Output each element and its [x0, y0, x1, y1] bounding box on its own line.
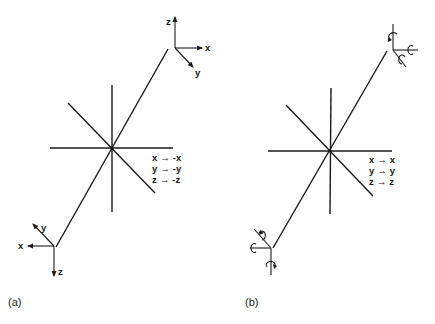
- inversion-center: [328, 149, 331, 152]
- mapping-row-y: y→-y: [152, 163, 182, 174]
- y-axis-arrow: [175, 48, 193, 67]
- bottom-rotation-frame: [250, 229, 277, 275]
- panel-b: x→x y→y z→z (b): [245, 24, 418, 308]
- y-axis-label: y: [41, 222, 47, 233]
- mapping-row-z: z→-z: [152, 174, 180, 185]
- inversion-center: [110, 146, 113, 149]
- figure-canvas: z x y x y z x→-x y→-y z→-z (a): [0, 0, 435, 324]
- mapping-a: x→-x y→-y z→-z: [152, 152, 182, 185]
- mapping-row-x: x→x: [369, 154, 396, 165]
- mapping-row-x: x→-x: [152, 152, 182, 163]
- z-axis-label: z: [166, 16, 171, 27]
- panel-a-caption: (a): [8, 296, 21, 308]
- panel-a: z x y x y z x→-x y→-y z→-z (a): [8, 16, 211, 308]
- y-rotation-axis: [254, 229, 271, 248]
- x-axis-label: x: [205, 42, 211, 53]
- bottom-coordinate-frame: x y z: [18, 222, 63, 277]
- top-rotation-frame: [388, 24, 418, 67]
- z-rotation-arrowhead: [388, 37, 392, 42]
- y-rotation-axis: [393, 50, 406, 67]
- x-axis-label: x: [18, 240, 24, 251]
- mapping-row-y: y→y: [369, 165, 396, 176]
- z-axis-label: z: [58, 266, 63, 277]
- top-coordinate-frame: z x y: [166, 16, 211, 78]
- panel-b-caption: (b): [245, 296, 258, 308]
- y-rotation-arrow-icon: [399, 55, 405, 64]
- mapping-b: x→x y→y z→z: [369, 154, 396, 187]
- mapping-row-z: z→z: [369, 176, 394, 187]
- y-axis-label: y: [195, 67, 201, 78]
